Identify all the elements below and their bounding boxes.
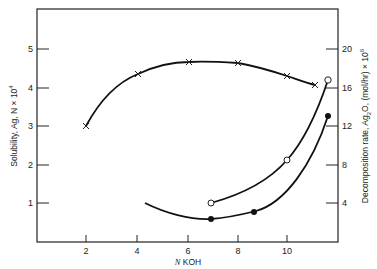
filled-circle-marker-icon	[325, 113, 331, 119]
x-tick-label: 6	[185, 246, 190, 256]
x-axis-label: N KOH	[174, 257, 201, 267]
x-tick-label: 4	[134, 246, 139, 256]
y-right-tick-label: 16	[342, 83, 352, 93]
x-axis-ticks	[86, 235, 287, 242]
open-circle-marker-icon	[325, 77, 331, 83]
y-left-tick-label: 1	[28, 198, 33, 208]
y-left-ticks	[37, 49, 49, 203]
y-left-tick-labels: 1 2 3 4 5	[28, 44, 33, 208]
open-circle-markers	[208, 77, 331, 206]
x-axis-tick-labels: 2 4 6 8 10	[83, 246, 292, 256]
y-left-tick-label: 2	[28, 160, 33, 170]
y-right-tick-label: 4	[342, 198, 347, 208]
x-tick-label: 8	[235, 246, 240, 256]
filled-circle-marker-icon	[251, 209, 257, 215]
decomposition-curve-open	[211, 80, 328, 203]
y-right-ticks	[326, 49, 338, 203]
y-left-axis-label: Solubility, Ag, N × 104	[8, 85, 19, 167]
y-right-tick-label: 8	[342, 160, 347, 170]
open-circle-marker-icon	[208, 200, 214, 206]
open-circle-marker-icon	[284, 157, 290, 163]
y-left-tick-label: 4	[28, 83, 33, 93]
plot-frame	[37, 9, 338, 242]
y-left-tick-label: 5	[28, 44, 33, 54]
y-right-tick-labels: 4 8 12 16 20	[342, 44, 352, 208]
y-right-axis-label: Decomposition rate, Ag2O, (mol/hr) × 106	[359, 48, 372, 203]
y-left-tick-label: 3	[28, 121, 33, 131]
x-marker-icon	[83, 123, 89, 129]
x-tick-label: 2	[83, 246, 88, 256]
y-right-tick-label: 20	[342, 44, 352, 54]
solubility-markers	[83, 59, 318, 129]
x-tick-label: 10	[282, 246, 292, 256]
chart: 2 4 6 8 10 N KOH 1 2 3 4 5 Solubility, A…	[0, 0, 377, 269]
decomposition-curve-filled	[145, 116, 328, 219]
y-right-tick-label: 12	[342, 121, 352, 131]
solubility-curve	[86, 62, 315, 126]
filled-circle-marker-icon	[208, 216, 214, 222]
